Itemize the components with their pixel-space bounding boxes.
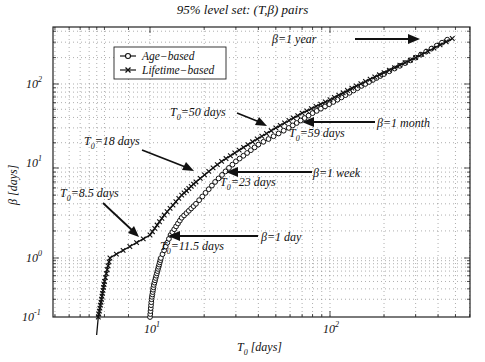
x-tick-labels: 101 102 (144, 320, 339, 336)
svg-text:T0=59 days: T0=59 days (289, 126, 345, 143)
circle-marker-icon (126, 54, 131, 59)
svg-text:T0=8.5 days: T0=8.5 days (60, 186, 119, 203)
legend-age: Age−based (141, 50, 195, 63)
y-tick-labels: 102 101 100 10-1 (22, 75, 42, 324)
age-based-line (150, 40, 447, 317)
svg-text:β=1 day: β=1 day (260, 230, 302, 244)
chart-plot: 102 101 100 10-1 101 102 T0 [days] β [da… (0, 0, 485, 362)
legend: Age−based Lifetime−based (114, 47, 226, 79)
svg-text:β=1 month: β=1 month (376, 116, 430, 130)
svg-text:β=1 week: β=1 week (312, 166, 361, 180)
svg-text:100: 100 (26, 249, 42, 265)
svg-text:101: 101 (26, 154, 42, 170)
svg-text:102: 102 (323, 320, 339, 336)
y-axis-label: β [days] (6, 164, 20, 206)
svg-text:T0=18 days: T0=18 days (84, 134, 140, 151)
svg-text:T0=50 days: T0=50 days (170, 105, 226, 122)
x-axis-label: T0 [days] (237, 340, 282, 357)
svg-text:10-1: 10-1 (22, 308, 41, 324)
svg-text:101: 101 (144, 320, 160, 336)
legend-lifetime: Lifetime−based (141, 64, 215, 77)
svg-text:T0=23 days: T0=23 days (220, 175, 276, 192)
svg-text:102: 102 (26, 75, 42, 91)
svg-text:β=1 year: β=1 year (271, 32, 317, 46)
